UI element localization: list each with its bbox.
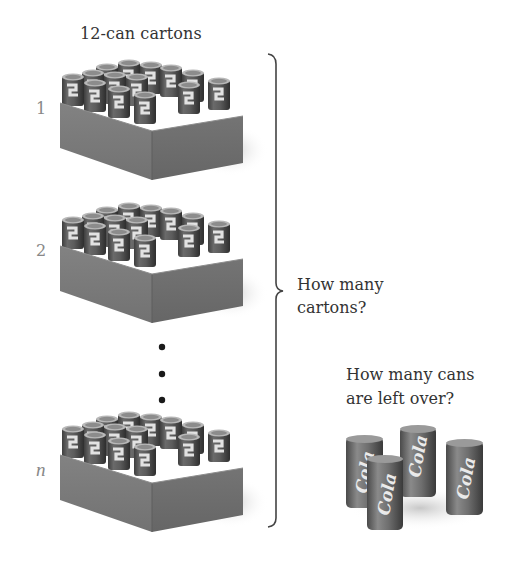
figure-title: 12-can cartons [80,24,202,43]
question-cartons-line2: cartons? [297,296,383,319]
can-2: Cola [367,455,403,530]
carton-n [60,412,268,533]
can-3: Cola [400,425,436,497]
illustration: Cola Cola Cola Cola [0,0,530,566]
question-cartons: How many cartons? [297,273,383,319]
carton-2 [60,203,268,324]
ellipsis-dots [159,344,165,403]
leftover-cans: Cola Cola Cola Cola [346,425,490,530]
question-leftover-line1: How many cans [346,363,475,387]
figure-canvas: Cola Cola Cola Cola 12-can cartons [0,0,530,566]
question-leftover-line2: are left over? [346,387,475,411]
curly-brace [268,54,283,527]
carton-label-n: n [36,459,46,481]
carton-label-2: 2 [36,241,46,260]
carton-1 [60,60,268,181]
question-leftover: How many cans are left over? [346,363,475,411]
question-cartons-line1: How many [297,273,383,296]
can-4: Cola [446,439,483,515]
carton-label-1: 1 [36,99,46,118]
